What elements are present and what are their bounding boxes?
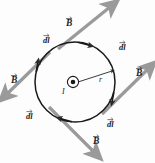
- field-label-bottom: B: [93, 137, 99, 147]
- line-element-top-right-text: dl: [119, 42, 126, 52]
- amperian-loop-figure: B B B: [0, 0, 155, 163]
- figure-canvas: [0, 0, 155, 163]
- line-element-top-left-text: dl: [43, 35, 50, 45]
- field-label-top-text: B: [66, 18, 72, 28]
- line-element-bottom-right-text: dl: [107, 119, 114, 129]
- field-label-left-text: B: [11, 75, 17, 85]
- line-element-label-top-left: dl: [43, 36, 50, 45]
- field-label-right-text: B: [136, 68, 142, 78]
- current-out-of-page-icon: [67, 76, 78, 87]
- line-element-label-bottom-left: dl: [26, 112, 33, 121]
- line-element-label-top-right: dl: [119, 43, 126, 52]
- field-label-top: B: [66, 19, 72, 29]
- line-element-bottom-left-text: dl: [26, 111, 33, 121]
- field-vector-bottom: [49, 107, 94, 152]
- current-label: I: [62, 88, 65, 96]
- field-label-bottom-text: B: [93, 136, 99, 146]
- field-label-right: B: [136, 69, 142, 79]
- line-element-label-bottom-right: dl: [107, 120, 114, 129]
- radius-label: r: [99, 76, 102, 84]
- radius-line: [78, 71, 112, 82]
- field-label-left: B: [11, 76, 17, 86]
